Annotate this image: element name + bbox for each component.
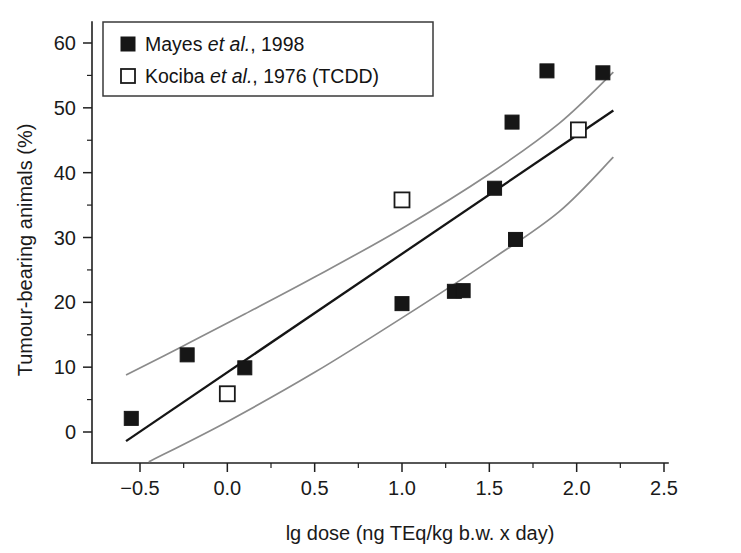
data-point-filled-square — [596, 66, 610, 80]
series-kociba — [220, 122, 586, 401]
y-tick-label: 40 — [54, 162, 76, 184]
x-tick-label: 2.5 — [650, 477, 678, 499]
scatter-plot: 0102030405060−0.50.00.51.01.52.02.5 Maye… — [0, 0, 741, 553]
legend-marker-filled-square — [121, 37, 135, 51]
x-tick-label: 1.0 — [388, 477, 416, 499]
data-point-filled-square — [540, 64, 554, 78]
data-point-filled-square — [395, 297, 409, 311]
x-tick-label: 0.5 — [301, 477, 329, 499]
regression-line-group — [126, 110, 613, 441]
upper-confidence-band — [126, 72, 613, 375]
y-tick-label: 10 — [54, 356, 76, 378]
legend-marker-open-square — [121, 69, 135, 83]
data-points-group — [124, 64, 610, 426]
y-axis-label: Tumour-bearing animals (%) — [14, 124, 36, 377]
y-tick-label: 20 — [54, 291, 76, 313]
x-tick-label: 2.0 — [563, 477, 591, 499]
lower-confidence-band — [149, 157, 614, 462]
legend-label: Kociba et al., 1976 (TCDD) — [145, 65, 379, 87]
x-tick-label: −0.5 — [120, 477, 159, 499]
data-point-filled-square — [238, 361, 252, 375]
x-tick-label: 0.0 — [213, 477, 241, 499]
y-tick-label: 30 — [54, 227, 76, 249]
y-tick-label: 50 — [54, 97, 76, 119]
y-tick-label: 60 — [54, 32, 76, 54]
data-point-filled-square — [509, 232, 523, 246]
data-point-open-square — [571, 122, 586, 137]
data-point-filled-square — [456, 284, 470, 298]
data-point-open-square — [395, 192, 410, 207]
legend: Mayes et al., 1998Kociba et al., 1976 (T… — [103, 22, 433, 96]
x-axis-label: lg dose (ng TEq/kg b.w. x day) — [286, 522, 555, 544]
x-tick-label: 1.5 — [475, 477, 503, 499]
confidence-bands-group — [126, 72, 613, 462]
data-point-filled-square — [180, 348, 194, 362]
data-point-filled-square — [505, 115, 519, 129]
axis-tick-labels-group: 0102030405060−0.50.00.51.01.52.02.5 — [54, 32, 678, 499]
data-point-open-square — [220, 386, 235, 401]
legend-item[interactable]: Mayes et al., 1998 — [121, 33, 304, 55]
series-mayes — [124, 64, 610, 426]
regression-line — [126, 110, 613, 441]
legend-label: Mayes et al., 1998 — [145, 33, 304, 55]
data-point-filled-square — [124, 411, 138, 425]
chart-container: 0102030405060−0.50.00.51.01.52.02.5 Maye… — [0, 0, 741, 553]
data-point-filled-square — [488, 181, 502, 195]
legend-item[interactable]: Kociba et al., 1976 (TCDD) — [121, 65, 379, 87]
y-tick-label: 0 — [65, 421, 76, 443]
